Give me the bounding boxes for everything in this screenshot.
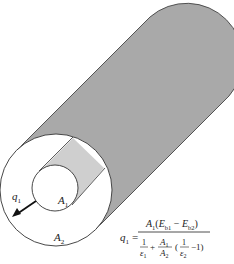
denom-eps1: ε1	[140, 248, 147, 259]
denom-eps2: ε2	[180, 248, 187, 259]
concentric-cylinders-diagram: q1 A1 A2 q1= A1(Eb1 − Eb2) 1 ε1 + A1 A2	[0, 0, 234, 264]
inner-cylinder-end-face	[32, 165, 78, 211]
denom-open-paren: (	[175, 242, 178, 252]
denom-one-a: 1	[142, 238, 146, 247]
denom-A2: A2	[159, 248, 169, 259]
denom-plus: +	[150, 242, 155, 252]
equation-lhs: q1=	[120, 231, 138, 246]
denom-A1: A1	[159, 237, 169, 248]
denom-one-b: 1	[182, 238, 186, 247]
radiation-exchange-equation: q1= A1(Eb1 − Eb2) 1 ε1 + A1 A2 ( 1 ε2 −1…	[120, 218, 210, 259]
diagram-svg: q1 A1 A2 q1= A1(Eb1 − Eb2) 1 ε1 + A1 A2	[0, 0, 234, 264]
denom-minus-one: −1)	[191, 242, 204, 252]
equation-numerator: A1(Eb1 − Eb2)	[145, 218, 198, 231]
